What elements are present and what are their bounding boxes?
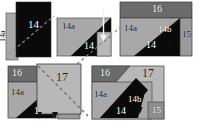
dashed-cut-line (9, 16, 54, 54)
region-14b-notch (97, 32, 111, 56)
panel-step-5: 16 17 14a 14b 14 15 (92, 66, 170, 124)
label-14a: 14a (11, 88, 24, 97)
dashed-cut-line (38, 66, 88, 116)
label-14b: 14b (158, 25, 172, 34)
region-14a-body (8, 82, 70, 118)
figure-canvas: 14 14a 14a 14 14b (0, 0, 201, 127)
region-14a-body (120, 18, 180, 56)
panel-2-graphics (57, 2, 113, 74)
region-14a-body (57, 18, 111, 56)
region-17-overlay (37, 64, 81, 114)
region-14-band-fill (71, 18, 111, 56)
panel-step-4: 16 14a 17 1 (8, 66, 86, 124)
label-16: 16 (152, 4, 162, 14)
region-14-block (16, 2, 51, 57)
region-16-bar (120, 2, 192, 18)
label-14a: 14a (62, 22, 75, 31)
dashed-cut-line (115, 26, 122, 32)
label-1: 1 (34, 106, 39, 116)
region-14-band (100, 78, 148, 118)
arrow-14b (137, 99, 142, 114)
label-15: 15 (182, 30, 191, 39)
label-17: 17 (56, 71, 68, 83)
label-16: 16 (100, 68, 110, 78)
region-14-band-lower (100, 84, 144, 118)
label-14: 14 (84, 41, 94, 51)
region-15-strip (58, 112, 80, 119)
region-14-band (71, 18, 111, 56)
arrow-14b (100, 8, 107, 42)
label-14a: 14a (0, 30, 7, 42)
region-14-band (16, 90, 54, 118)
label-16: 16 (12, 68, 22, 78)
panel-4-graphics (8, 66, 86, 124)
panel-5-graphics (92, 66, 170, 124)
label-17: 17 (142, 67, 154, 79)
region-14-band (134, 18, 180, 56)
label-14: 14 (116, 106, 126, 116)
arrow-left (36, 112, 42, 119)
region-16-bar (8, 66, 38, 82)
panel-step-2: 14a 14 14b (57, 2, 113, 60)
label-14a: 14a (124, 24, 137, 33)
panel-3-graphics (120, 2, 196, 60)
region-15-strip (148, 102, 164, 119)
panel-1-graphics (6, 2, 54, 60)
dashed-cut-line (77, 34, 113, 64)
region-14a-strip (6, 13, 18, 60)
label-14: 14 (28, 19, 39, 30)
region-15-strip (180, 18, 192, 56)
label-15: 15 (152, 106, 161, 115)
region-16-bar (92, 66, 130, 82)
arrow-right (52, 112, 58, 119)
label-14b: 14b (128, 95, 142, 104)
panel-step-1: 14 14a (6, 2, 54, 60)
arrow-14b (167, 36, 172, 50)
label-14a: 14a (94, 90, 107, 99)
region-14a-body (92, 82, 152, 119)
region-17-body (92, 66, 164, 119)
panel-step-3: 16 14a 14b 14 15 (120, 2, 196, 60)
label-14: 14 (146, 40, 156, 50)
